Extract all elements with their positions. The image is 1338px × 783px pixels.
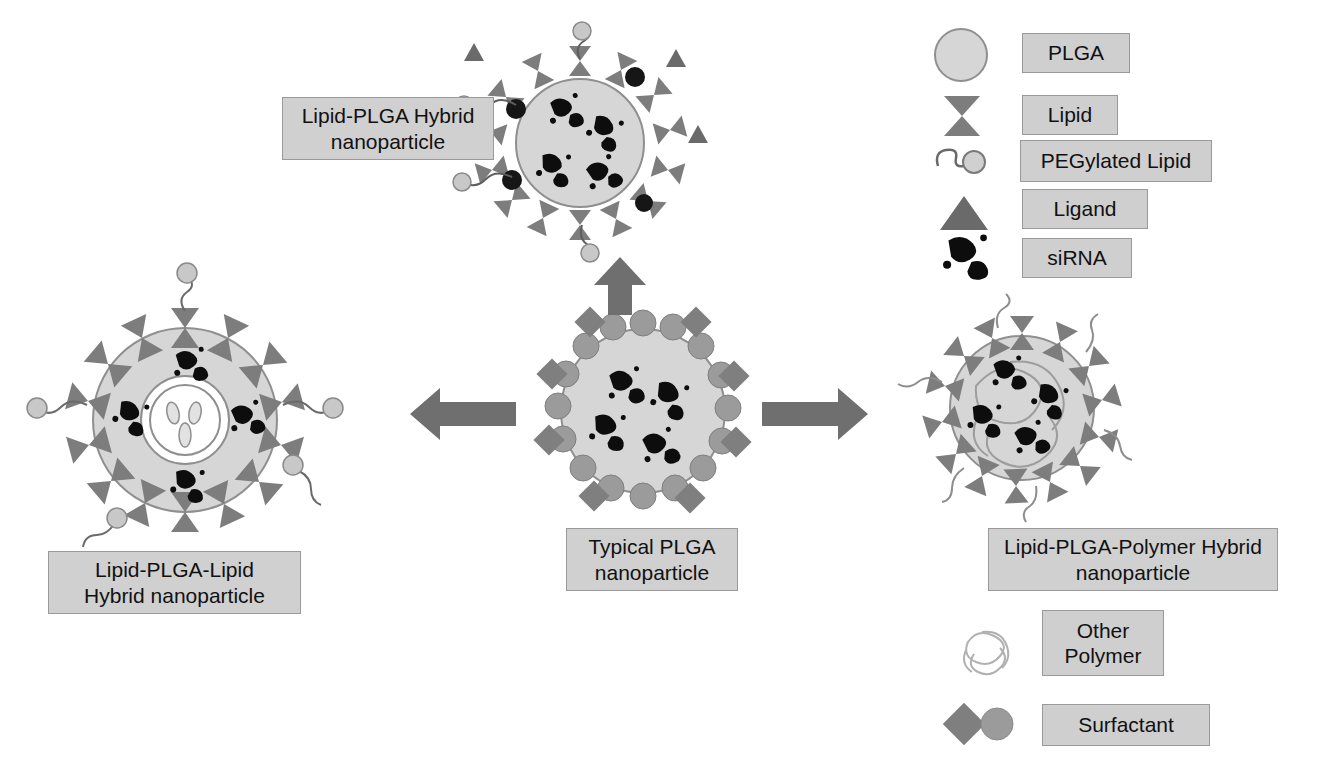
particle-lipid-plga-lipid-hybrid <box>25 275 345 565</box>
legend-icon-surfactant <box>940 700 1020 748</box>
legend-label-ligand: Ligand <box>1022 189 1148 229</box>
arrow-up <box>590 255 650 317</box>
arrow-right-icon <box>760 385 870 443</box>
legend-label-surfactant: Surfactant <box>1042 704 1210 746</box>
arrow-up-icon <box>590 255 650 317</box>
legend-icon-other-polymer <box>952 620 1022 680</box>
inner-lipid-vesicle <box>141 376 229 464</box>
legend-label-sirna: siRNA <box>1022 238 1132 278</box>
arrow-left <box>408 385 518 443</box>
lipid-bowtie-icon <box>938 92 986 140</box>
label-lipid-plga-lipid-hybrid: Lipid-PLGA-Lipid Hybrid nanoparticle <box>48 551 301 614</box>
figure-canvas: Lipid-PLGA Hybrid nanoparticle <box>0 0 1338 783</box>
label-lipid-plga-polymer-hybrid: Lipid-PLGA-Polymer Hybrid nanoparticle <box>988 528 1278 591</box>
label-typical-plga: Typical PLGA nanoparticle <box>566 528 738 591</box>
arrow-right <box>760 385 870 443</box>
sirna-blob-icon <box>938 226 994 282</box>
surfactant-diamond-circle-icon <box>940 700 1020 748</box>
legend-icon-pegylated-lipid <box>934 140 996 180</box>
particle-typical-plga <box>528 296 758 526</box>
label-lipid-plga-hybrid: Lipid-PLGA Hybrid nanoparticle <box>282 97 494 160</box>
legend-icon-lipid <box>938 92 986 140</box>
legend-label-lipid: Lipid <box>1022 95 1118 135</box>
pegylated-lipid-icon <box>934 140 996 180</box>
legend-label-plga: PLGA <box>1022 33 1130 73</box>
particle-typical-plga-graphic <box>528 296 758 526</box>
other-polymer-coil-icon <box>952 620 1022 680</box>
legend-icon-plga <box>932 26 990 84</box>
plga-core <box>516 79 644 207</box>
arrow-left-icon <box>408 385 518 443</box>
particle-lipid-plga-polymer-hybrid <box>890 290 1170 540</box>
legend-icon-sirna <box>938 226 994 282</box>
particle-lipid-plga-polymer-graphic <box>890 290 1170 540</box>
legend-label-pegylated-lipid: PEGylated Lipid <box>1020 140 1212 182</box>
particle-lipid-plga-lipid-graphic <box>25 275 345 565</box>
legend-label-other-polymer: Other Polymer <box>1042 610 1164 676</box>
plga-circle-icon <box>932 26 990 84</box>
